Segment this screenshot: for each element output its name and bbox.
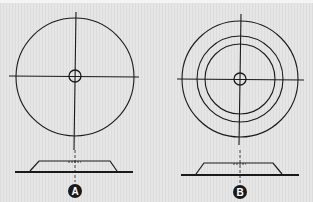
label-a-badge: A <box>68 184 82 198</box>
label-a: A <box>71 186 78 197</box>
label-b: B <box>236 187 243 198</box>
label-b-badge: B <box>233 185 247 199</box>
diagram: A B <box>0 0 313 202</box>
